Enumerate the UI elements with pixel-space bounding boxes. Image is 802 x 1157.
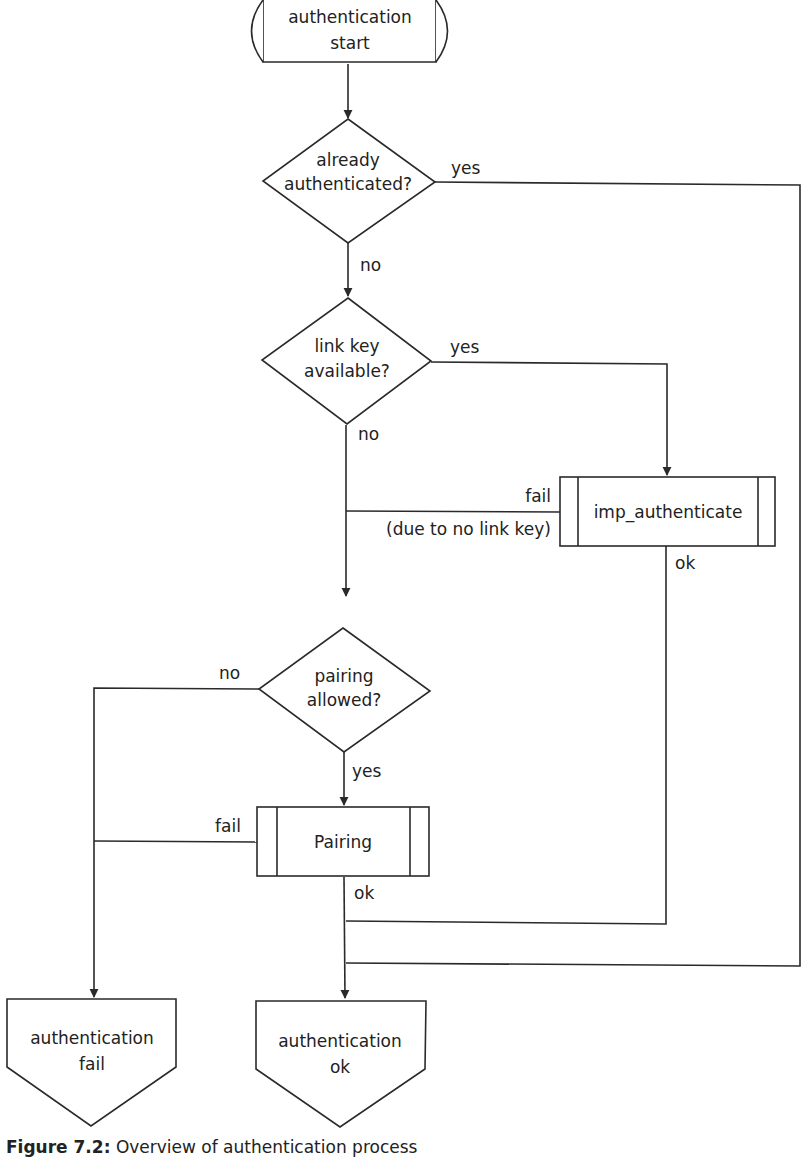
node-authentication-fail: authentication fail <box>7 999 176 1126</box>
node-authentication-start: authentication start <box>252 0 448 62</box>
edge-pairing-fail <box>94 841 257 842</box>
label-already-no: no <box>360 255 381 275</box>
already-label-line1: already <box>316 150 379 170</box>
label-imp-ok: ok <box>675 553 695 573</box>
start-label-line1: authentication <box>288 7 412 27</box>
caption-text: Overview of authentication process <box>116 1137 418 1157</box>
label-pairing-fail: fail <box>215 816 241 836</box>
start-label-line2: start <box>330 33 370 53</box>
pairing-allowed-label-line2: allowed? <box>307 690 381 710</box>
label-linkkey-yes: yes <box>450 337 480 357</box>
label-pairing-ok: ok <box>354 883 374 903</box>
label-pairing-allowed-no: no <box>219 663 240 683</box>
label-imp-fail: fail <box>525 486 551 506</box>
auth-fail-label-line2: fail <box>79 1054 105 1074</box>
figure-caption: Figure 7.2: Overview of authentication p… <box>6 1137 417 1157</box>
node-already-authenticated: already authenticated? <box>263 119 435 243</box>
pairing-allowed-label-line1: pairing <box>314 666 373 686</box>
imp-authenticate-label: imp_authenticate <box>594 502 743 523</box>
linkkey-label-line2: available? <box>304 361 390 381</box>
edge-imp-fail <box>346 511 560 512</box>
auth-fail-label-line1: authentication <box>30 1028 154 1048</box>
auth-ok-label-line1: authentication <box>278 1031 402 1051</box>
edge-pairing-ok <box>344 877 345 998</box>
label-imp-fail-reason: (due to no link key) <box>386 519 551 539</box>
node-authentication-ok: authentication ok <box>256 1001 426 1127</box>
caption-prefix: Figure 7.2: <box>6 1137 110 1157</box>
already-label-line2: authenticated? <box>284 174 412 194</box>
label-already-yes: yes <box>451 158 481 178</box>
pairing-label: Pairing <box>314 832 372 852</box>
edge-linkkey-yes <box>431 362 667 475</box>
node-pairing-allowed: pairing allowed? <box>259 628 430 752</box>
node-pairing: Pairing <box>257 807 429 876</box>
linkkey-label-line1: link key <box>314 336 379 356</box>
node-imp-authenticate: imp_authenticate <box>560 477 775 546</box>
node-link-key-available: link key available? <box>262 298 431 424</box>
auth-ok-label-line2: ok <box>330 1057 350 1077</box>
label-linkkey-no: no <box>358 424 379 444</box>
label-pairing-allowed-yes: yes <box>352 761 382 781</box>
